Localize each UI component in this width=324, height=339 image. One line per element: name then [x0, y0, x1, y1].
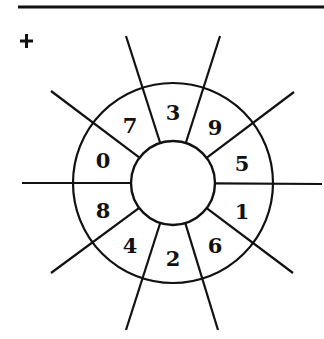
segment-label: 2: [166, 246, 181, 271]
number-ring-diagram: 3951624807: [0, 0, 324, 339]
segment-label: 6: [208, 233, 223, 258]
segment-label: 7: [123, 113, 138, 138]
segment-label: 5: [235, 151, 250, 176]
inner-hub: [131, 141, 215, 225]
segment-label: 8: [96, 198, 111, 223]
ray-line: [215, 183, 322, 184]
segment-label: 4: [123, 233, 138, 258]
segment-label: 3: [166, 100, 181, 125]
segment-label: 1: [235, 199, 250, 224]
plus-marker-icon: [20, 34, 33, 48]
segment-label: 9: [208, 115, 223, 140]
segment-label: 0: [96, 148, 111, 173]
